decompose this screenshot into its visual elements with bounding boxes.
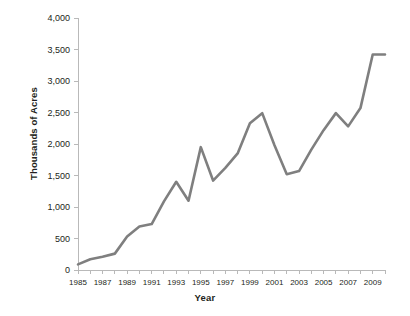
y-axis-tick-labels: 05001,0001,5002,0002,5003,0003,5004,000 <box>47 13 70 275</box>
x-tick-label: 1985 <box>69 278 87 287</box>
x-axis-tick-marks <box>78 270 385 274</box>
x-axis-tick-labels: 1985198719891991199319951997199920012003… <box>69 278 382 287</box>
x-tick-label: 1995 <box>192 278 210 287</box>
x-tick-label: 1989 <box>118 278 136 287</box>
y-tick-label: 1,000 <box>47 202 70 212</box>
y-tick-label: 3,500 <box>47 45 70 55</box>
y-tick-label: 2,500 <box>47 108 70 118</box>
x-tick-label: 2001 <box>266 278 284 287</box>
x-tick-label: 1993 <box>167 278 185 287</box>
x-tick-label: 1987 <box>94 278 112 287</box>
x-tick-label: 1991 <box>143 278 161 287</box>
x-tick-label: 1999 <box>241 278 259 287</box>
x-tick-label: 2007 <box>339 278 357 287</box>
y-tick-label: 1,500 <box>47 171 70 181</box>
y-tick-label: 500 <box>55 234 70 244</box>
line-chart-plot: 05001,0001,5002,0002,5003,0003,5004,000 … <box>0 0 410 316</box>
x-tick-label: 2003 <box>290 278 308 287</box>
x-tick-label: 1997 <box>216 278 234 287</box>
y-tick-label: 3,000 <box>47 76 70 86</box>
y-tick-label: 4,000 <box>47 13 70 23</box>
data-series-line <box>78 55 385 265</box>
y-tick-label: 0 <box>65 265 70 275</box>
y-axis-tick-marks <box>74 18 78 270</box>
x-tick-label: 2009 <box>364 278 382 287</box>
y-tick-label: 2,000 <box>47 139 70 149</box>
x-tick-label: 2005 <box>315 278 333 287</box>
chart-figure: Thousands of Acres Year 05001,0001,5002,… <box>0 0 410 316</box>
